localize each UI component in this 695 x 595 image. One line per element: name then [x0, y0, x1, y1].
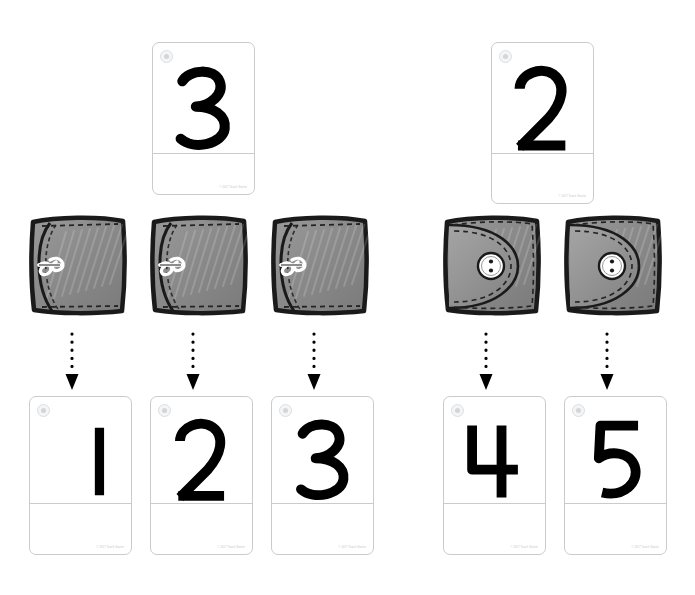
- card-credit-text: © 2017 Teach Starter: [631, 546, 659, 549]
- right-group: © 2017 Teach Starter© 2017 Teach Starter…: [0, 0, 695, 595]
- purse-button-1: [440, 212, 544, 318]
- numeral-4: [444, 397, 545, 504]
- number-card-5[interactable]: © 2017 Teach Starter: [564, 396, 667, 555]
- answer-numeral-2: [492, 43, 593, 154]
- numeral-5: [565, 397, 666, 504]
- number-card-4[interactable]: © 2017 Teach Starter: [443, 396, 546, 555]
- arrow-down-4: [479, 332, 493, 390]
- arrow-down-5: [600, 332, 614, 390]
- worksheet-canvas: © 2017 Teach Starter© 2017 Teach Starter…: [0, 0, 695, 595]
- answer-card-2[interactable]: © 2017 Teach Starter: [491, 42, 594, 204]
- purse-button-2: [561, 212, 665, 318]
- card-credit-text: © 2017 Teach Starter: [558, 195, 586, 198]
- card-credit-text: © 2017 Teach Starter: [510, 546, 538, 549]
